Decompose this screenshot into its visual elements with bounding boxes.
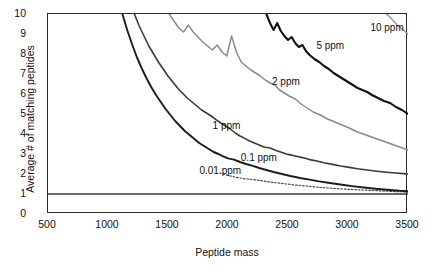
y-tick-label-6: 6 <box>0 88 26 98</box>
x-tick-label-2000: 2000 <box>204 219 250 230</box>
x-tick-label-1500: 1500 <box>144 219 190 230</box>
y-tick-label-2: 2 <box>0 168 26 178</box>
series-label-10-ppm: 10 ppm <box>370 23 403 33</box>
y-tick-label-4: 4 <box>0 128 26 138</box>
y-tick-label-0: 0 <box>0 208 26 218</box>
x-tick-label-3000: 3000 <box>324 219 370 230</box>
series-line-1-ppm <box>134 14 408 174</box>
y-tick-label-1: 1 <box>0 188 26 198</box>
y-tick-label-3: 3 <box>0 148 26 158</box>
series-label-0-01-ppm: 0.01 ppm <box>199 166 241 176</box>
x-tick-label-2500: 2500 <box>264 219 310 230</box>
y-tick-label-10: 10 <box>0 8 26 18</box>
x-tick-label-500: 500 <box>24 219 70 230</box>
y-tick-label-5: 5 <box>0 108 26 118</box>
y-tick-label-8: 8 <box>0 48 26 58</box>
x-tick-label-1000: 1000 <box>84 219 130 230</box>
y-tick-label-9: 9 <box>0 28 26 38</box>
chart-figure: Average # of matching peptides 10 9 8 7 … <box>0 0 437 267</box>
series-line-0-1-ppm <box>122 14 408 191</box>
x-axis-title: Peptide mass <box>47 246 407 258</box>
series-canvas <box>48 14 408 214</box>
plot-area <box>47 13 407 213</box>
y-tick-label-7: 7 <box>0 68 26 78</box>
series-label-0-1-ppm: 0.1 ppm <box>241 153 277 163</box>
series-label-5-ppm: 5 ppm <box>316 41 344 51</box>
series-label-2-ppm: 2 ppm <box>272 77 300 87</box>
series-label-1-ppm: 1 ppm <box>213 121 241 131</box>
x-tick-label-3500: 3500 <box>384 219 430 230</box>
